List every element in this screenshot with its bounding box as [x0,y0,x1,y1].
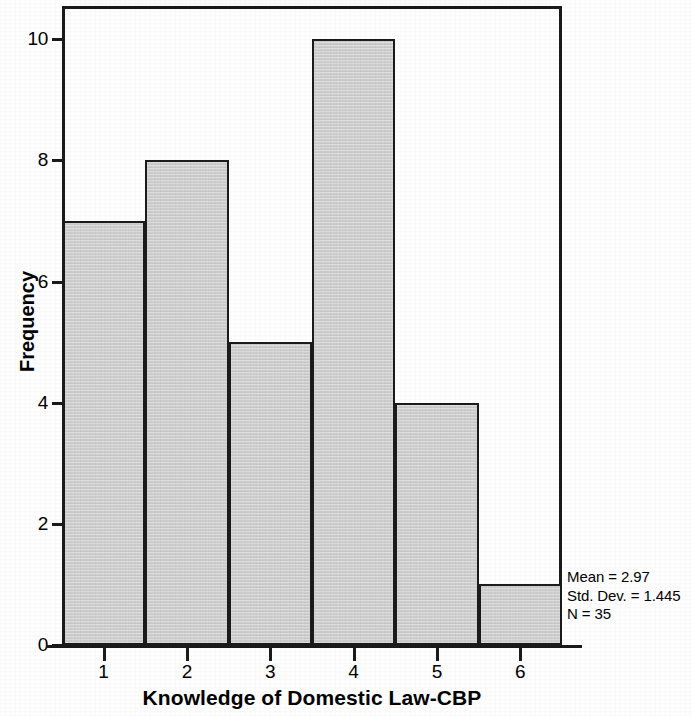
y-axis-tick-label: 0 [22,635,48,654]
bars-layer [62,6,562,645]
sample-size-label: N = 35 [567,605,691,624]
y-axis-title: Frequency [16,247,39,397]
mean-label: Mean = 2.97 [567,568,691,587]
histogram-bar [312,39,395,645]
y-axis-tick [52,159,63,162]
x-axis-tick-label: 2 [172,662,202,681]
y-axis-tick [52,38,63,41]
x-axis-tick-label: 1 [89,662,119,681]
y-axis-tick [52,402,63,405]
histogram-bar [62,221,145,645]
y-axis-line [62,6,65,645]
x-axis-tick [436,648,439,661]
x-axis-tick [519,648,522,661]
x-axis-tick-label: 4 [339,662,369,681]
y-axis-tick-label: 10 [22,29,48,48]
x-axis-tick-label: 6 [505,662,535,681]
std-dev-label: Std. Dev. = 1.445 [567,587,691,606]
x-axis-tick [269,648,272,661]
histogram-bar [145,160,228,645]
histogram-bar [395,403,478,645]
y-axis-tick-label: 2 [22,514,48,533]
histogram-bar [479,584,562,645]
histogram-figure: 0 2 4 6 8 10 Frequency 1 2 3 4 5 6 Knowl… [0,0,693,716]
x-axis-tick-label: 5 [422,662,452,681]
y-axis-tick [52,281,63,284]
x-axis-line [46,645,582,648]
y-axis-tick [52,523,63,526]
x-axis-tick [103,648,106,661]
x-axis-tick-label: 3 [255,662,285,681]
x-axis-tick [353,648,356,661]
statistics-annotation: Mean = 2.97 Std. Dev. = 1.445 N = 35 [567,568,691,624]
x-axis-tick [186,648,189,661]
histogram-bar [229,342,312,645]
x-axis-title: Knowledge of Domestic Law-CBP [62,686,562,710]
y-axis-tick-label: 8 [22,150,48,169]
